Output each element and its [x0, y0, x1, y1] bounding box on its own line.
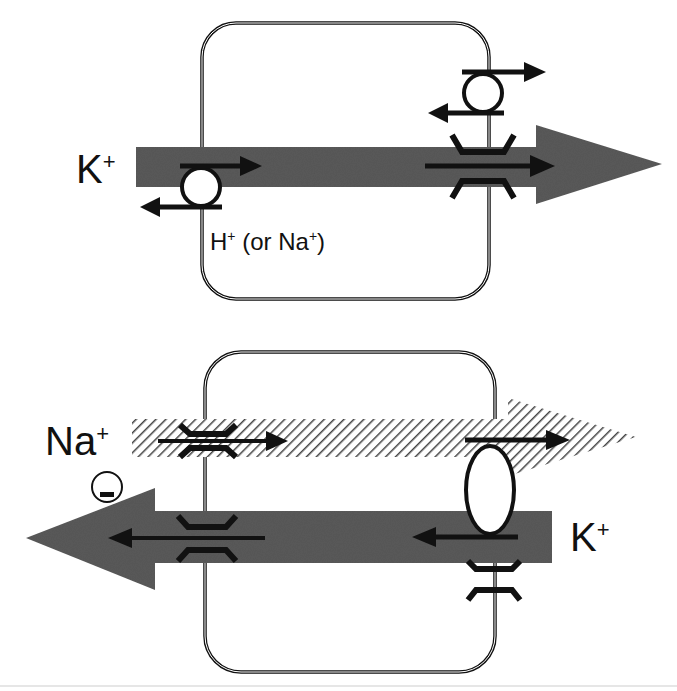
- bottom-panel: Na+ K+: [26, 352, 636, 672]
- label-k-top: K+: [76, 147, 116, 191]
- label-k-bottom: K+: [570, 515, 610, 559]
- arrow-left-icon: [140, 197, 160, 217]
- ion-transport-diagram: K+ H+ (or Na+): [0, 0, 677, 691]
- basolateral-exchanger-top: [428, 62, 546, 123]
- label-na-bottom: Na+: [45, 419, 109, 463]
- label-h-or-na: H+ (or Na+): [210, 228, 325, 255]
- arrow-right-icon: [524, 62, 546, 82]
- negative-charge-icon: [92, 472, 122, 502]
- top-panel: K+ H+ (or Na+): [76, 23, 662, 299]
- arrow-left-icon: [428, 103, 448, 123]
